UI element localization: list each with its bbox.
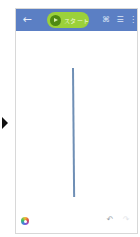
drawing-canvas[interactable] [16, 31, 137, 211]
more-vert-icon[interactable]: ⋮ [128, 14, 138, 25]
back-arrow-icon[interactable]: ← [20, 12, 34, 28]
screen: ← スタート ⌘ ☰ ⋮ ↶ ↷ [0, 0, 140, 237]
color-picker-icon[interactable] [21, 217, 29, 225]
bottom-toolbar: ↶ ↷ [16, 211, 137, 233]
gallery-icon[interactable]: ⌘ [101, 14, 111, 25]
undo-icon[interactable]: ↶ [105, 215, 115, 225]
start-button-label: スタート [64, 16, 89, 25]
app-header: ← スタート ⌘ ☰ ⋮ [16, 9, 137, 31]
phone-frame: ← スタート ⌘ ☰ ⋮ ↶ ↷ [15, 8, 138, 234]
redo-icon[interactable]: ↷ [121, 215, 131, 225]
start-button[interactable]: スタート [47, 12, 89, 28]
play-icon [50, 15, 61, 26]
menu-list-icon[interactable]: ☰ [115, 14, 125, 25]
expand-panel-icon[interactable] [2, 117, 8, 129]
drawn-stroke [72, 68, 75, 197]
